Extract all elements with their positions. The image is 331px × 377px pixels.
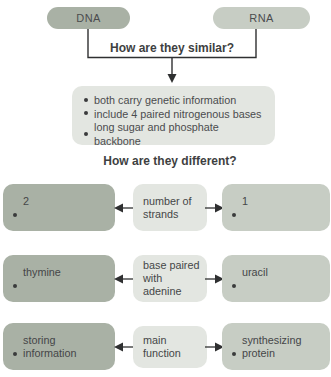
category-label: main function <box>143 334 203 360</box>
bullet-icon <box>84 132 88 136</box>
bullet-icon <box>13 213 17 217</box>
category-label: number of strands <box>143 195 203 221</box>
comparison-diagram: DNA RNA How are they similar? How are th… <box>0 0 331 377</box>
rna-strands-box: 1 <box>222 184 330 231</box>
rna-node: RNA <box>213 7 310 29</box>
similarity-text: include 4 paired nitrogenous bases <box>94 108 261 122</box>
difference-row-base: thymine base paired with adenine uracil <box>0 255 331 303</box>
similarity-text: both carry genetic information <box>94 94 236 108</box>
similarity-text: long sugar and phosphate backbone <box>94 121 267 148</box>
rna-base-box: uracil <box>222 255 330 302</box>
similarity-item: long sugar and phosphate backbone <box>82 121 267 148</box>
dna-strands-box: 2 <box>3 184 115 231</box>
dna-node-label: DNA <box>76 12 100 24</box>
bullet-icon <box>232 352 236 356</box>
similar-question-heading: How are they similar? <box>13 41 331 55</box>
different-question-heading: How are they different? <box>9 154 331 168</box>
similarity-item: both carry genetic information <box>82 94 267 108</box>
bullet-icon <box>232 284 236 288</box>
arrow-left-icon <box>114 342 133 352</box>
down-arrow-icon <box>168 74 177 83</box>
dna-base-box: thymine <box>3 255 115 302</box>
rna-strands-value: 1 <box>242 195 248 208</box>
rna-function-value: synthesizing protein <box>242 334 322 360</box>
difference-row-function: storing information main function synthe… <box>0 323 331 371</box>
bullet-icon <box>232 213 236 217</box>
rna-node-label: RNA <box>249 12 273 24</box>
bullet-icon <box>13 284 17 288</box>
dna-strands-value: 2 <box>23 195 29 208</box>
arrow-left-icon <box>114 203 133 213</box>
bullet-icon <box>84 111 88 115</box>
category-box-function: main function <box>133 326 207 368</box>
dna-function-value: storing information <box>23 334 107 360</box>
dna-node: DNA <box>47 7 130 29</box>
similarity-item: include 4 paired nitrogenous bases <box>82 108 267 122</box>
category-box-strands: number of strands <box>133 184 207 231</box>
difference-row-strands: 2 number of strands 1 <box>0 184 331 232</box>
dna-base-value: thymine <box>23 266 61 279</box>
bullet-icon <box>84 98 88 102</box>
category-box-base: base paired with adenine <box>133 255 207 302</box>
similarities-box: both carry genetic information include 4… <box>72 86 275 145</box>
bullet-icon <box>13 352 17 356</box>
category-label: base paired with adenine <box>143 259 203 298</box>
dna-function-box: storing information <box>3 323 115 370</box>
rna-function-box: synthesizing protein <box>222 323 330 370</box>
arrow-left-icon <box>114 274 133 284</box>
rna-base-value: uracil <box>242 266 268 279</box>
